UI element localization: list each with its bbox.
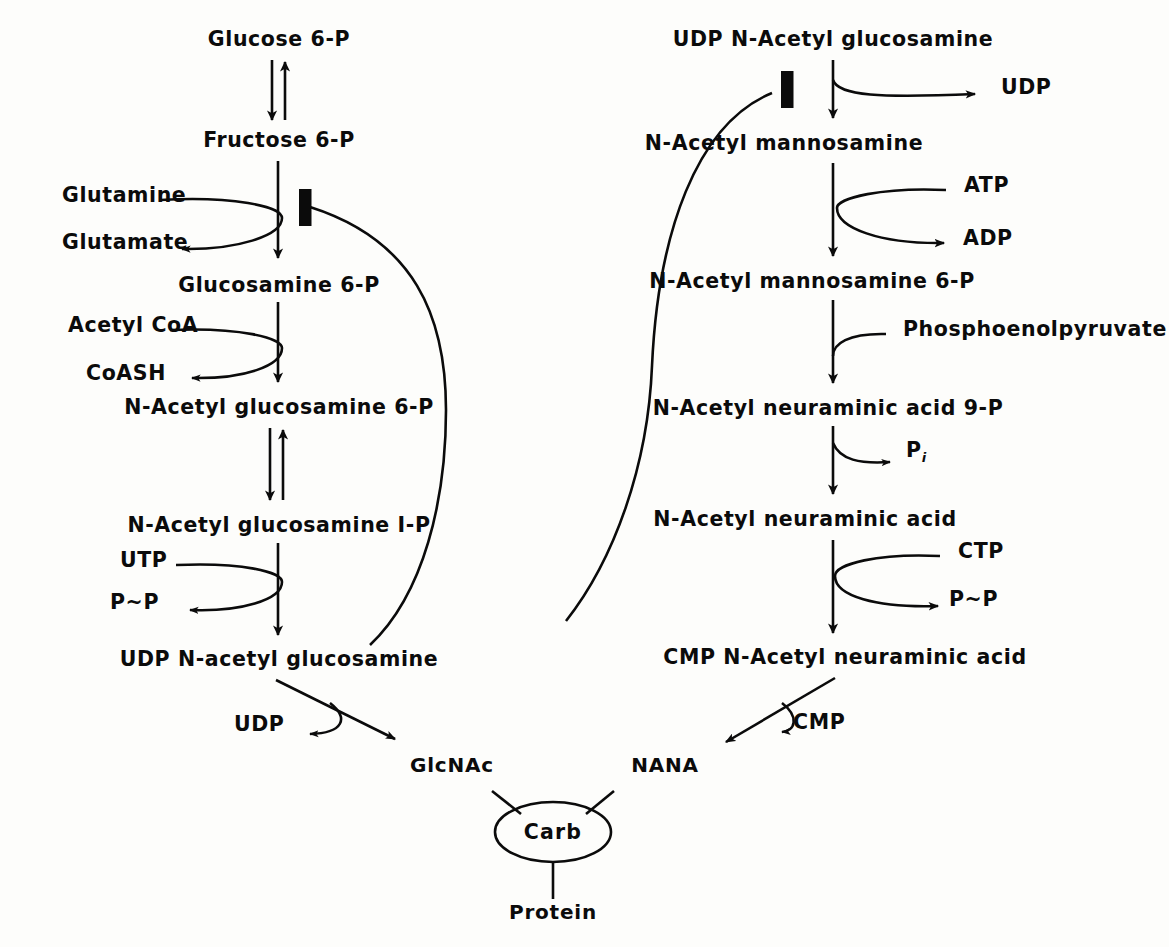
curve-udp-out-right [833, 80, 975, 96]
cofactor-coash: CoASH [86, 361, 166, 385]
curve-atp-in [837, 189, 946, 208]
node-n-acetyl-glucosamine-6-p: N-Acetyl glucosamine 6-P [124, 395, 434, 419]
cofactor-adp: ADP [963, 226, 1013, 250]
curve-utp-in [176, 564, 282, 582]
node-udp-n-acetyl-glucosamine-top: UDP N-Acetyl glucosamine [673, 27, 994, 51]
arrow-glucose6p-fructose6p [272, 60, 285, 120]
branch-label-nana: NANA [631, 753, 699, 777]
cofactor-phosphoenolpyruvate: Phosphoenolpyruvate [903, 317, 1167, 341]
cofactor-glutamine: Glutamine [62, 183, 186, 207]
node-n-acetyl-neuraminic-acid: N-Acetyl neuraminic acid [653, 507, 956, 531]
curve-coash-out [192, 348, 282, 378]
inhibition-bar-left [299, 189, 312, 226]
curve-ppi-out-left [190, 582, 282, 610]
pathway-diagram: Glucose 6-P Fructose 6-P Glucosamine 6-P… [0, 0, 1169, 947]
pathway-arrow-layer [0, 0, 1169, 947]
node-n-acetyl-neuraminic-acid-9-p: N-Acetyl neuraminic acid 9-P [653, 396, 1004, 420]
curve-right-feedback-inhibition [566, 93, 772, 621]
pi-subscript: i [922, 450, 926, 465]
pi-letter: P [906, 438, 922, 462]
inhibition-bar-right [781, 71, 794, 108]
node-n-acetyl-glucosamine-1-p: N-Acetyl glucosamine I-P [127, 513, 430, 537]
cofactor-cmp-release: CMP [793, 710, 845, 734]
node-n-acetyl-mannosamine-6-p: N-Acetyl mannosamine 6-P [649, 269, 975, 293]
node-cmp-n-acetyl-neuraminic-acid: CMP N-Acetyl neuraminic acid [663, 645, 1026, 669]
cofactor-pyrophosphate-left: P~P [110, 590, 159, 614]
spoke-nana [586, 791, 614, 814]
cofactor-udp-right: UDP [1001, 75, 1052, 99]
curve-udp-release [310, 703, 341, 734]
curve-ctp-in [835, 556, 940, 576]
cofactor-inorganic-phosphate: Pi [906, 438, 926, 465]
cofactor-glutamate: Glutamate [62, 230, 188, 254]
curve-pi-out [833, 443, 890, 462]
curve-glutamate-out [182, 218, 282, 249]
spoke-glcnac [492, 791, 521, 814]
node-udp-n-acetyl-glucosamine: UDP N-acetyl glucosamine [120, 647, 439, 671]
carb-node-label: Carb [524, 820, 582, 844]
curve-adp-out [837, 208, 944, 243]
cofactor-atp: ATP [964, 173, 1009, 197]
node-glucose-6-p: Glucose 6-P [208, 27, 350, 51]
cofactor-udp-release: UDP [234, 712, 285, 736]
curve-ppi-out-right [835, 576, 938, 606]
cofactor-acetyl-coa: Acetyl CoA [68, 313, 198, 337]
curve-pep-in [833, 334, 886, 356]
arrow-glcnac6p-glcnac1p [270, 428, 283, 500]
node-glucosamine-6-p: Glucosamine 6-P [178, 273, 380, 297]
branch-label-glcnac: GlcNAc [410, 753, 494, 777]
cofactor-ctp: CTP [958, 539, 1004, 563]
cofactor-utp: UTP [120, 548, 167, 572]
node-fructose-6-p: Fructose 6-P [203, 128, 355, 152]
branch-label-protein: Protein [509, 900, 597, 924]
cofactor-pyrophosphate-right: P~P [949, 587, 998, 611]
node-n-acetyl-mannosamine: N-Acetyl mannosamine [645, 131, 923, 155]
